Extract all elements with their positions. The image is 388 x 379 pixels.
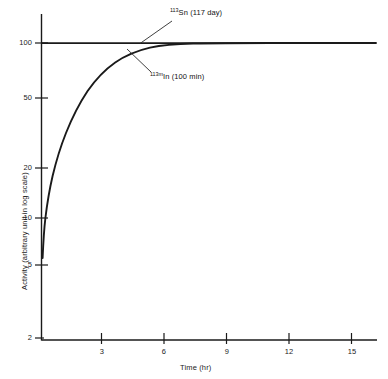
y-tick-label-50: 50 xyxy=(8,93,32,102)
y-tick-label-20: 20 xyxy=(8,163,32,172)
leader-line-sn113 xyxy=(140,21,172,44)
x-tick-label-15: 15 xyxy=(341,347,363,356)
y-tick-label-100: 100 xyxy=(8,38,32,47)
chart-canvas xyxy=(0,0,388,379)
x-tick-label-3: 3 xyxy=(91,347,113,356)
figure-radionuclide-generator-ingrowth: 100 50 20 10 5 2 3 6 9 12 15 Time (hr) A… xyxy=(0,0,388,379)
series-in113m-ingrowth-curve xyxy=(43,43,376,258)
annotation-in113m-text: In (100 min) xyxy=(163,72,204,81)
annotation-sn113-mass-number: 113 xyxy=(170,7,179,13)
x-axis-title: Time (hr) xyxy=(180,363,212,372)
y-axis-title: Activity (arbitrary unit in log scale) xyxy=(20,172,29,290)
x-tick-label-12: 12 xyxy=(278,347,300,356)
axis-lines xyxy=(42,14,378,341)
x-tick-label-9: 9 xyxy=(216,347,238,356)
y-tick-label-2: 2 xyxy=(8,333,32,342)
x-tick-label-6: 6 xyxy=(153,347,175,356)
annotation-in113m-mass-number: 113m xyxy=(150,71,163,77)
leader-line-in113m xyxy=(127,49,151,72)
annotation-sn113-label: 113Sn (117 day) xyxy=(170,8,222,17)
annotation-sn113-text: Sn (117 day) xyxy=(179,8,223,17)
annotation-in113m-label: 113mIn (100 min) xyxy=(150,72,204,81)
annotation-leader-lines xyxy=(127,21,172,72)
x-tick-marks xyxy=(102,333,352,344)
